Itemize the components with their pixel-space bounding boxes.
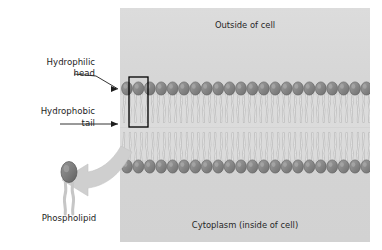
hydrophobic-label-line1: Hydrophobic (41, 106, 96, 116)
phospholipid-head (61, 162, 77, 183)
hydrophilic-label-line2: head (74, 68, 95, 78)
phospholipid-label: Phospholipid (42, 213, 97, 223)
bottom-mask (120, 242, 370, 250)
phospholipid-bilayer-diagram: Hydrophilic head Hydrophobic tail Phosph… (0, 0, 382, 250)
top-mask (120, 0, 370, 8)
cytoplasm-label: Cytoplasm (inside of cell) (192, 220, 298, 230)
hydrophilic-label-line1: Hydrophilic (47, 57, 96, 67)
outside-of-cell-label: Outside of cell (215, 20, 275, 30)
hydrophobic-label-line2: tail (82, 118, 95, 128)
right-mask (370, 0, 382, 250)
diagram-canvas: Hydrophilic head Hydrophobic tail Phosph… (0, 0, 382, 250)
